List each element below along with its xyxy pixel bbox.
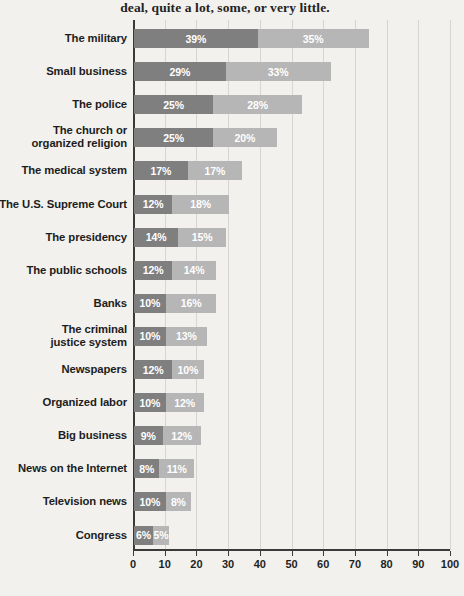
bar-segment-b: 12% [163,426,201,445]
bar-segment-b: 20% [213,128,276,147]
bar-segment-a: 10% [134,393,166,412]
bar-segment-b: 13% [166,327,207,346]
bar-value-b: 17% [204,165,225,177]
bar-value-a: 39% [185,33,206,45]
bar-value-a: 29% [170,66,191,78]
bar-value-a: 25% [163,132,184,144]
row-label-line: Television news [0,495,127,508]
bar-segment-a: 6% [134,526,153,545]
bar-value-b: 33% [268,66,289,78]
bar-segment-b: 17% [188,161,242,180]
chart-row: The police25%28% [0,88,450,121]
bar-segment-a: 39% [134,29,258,48]
bar-value-b: 13% [176,330,197,342]
stacked-bar: 39%35% [134,29,369,48]
chart-row: The presidency14%15% [0,221,450,254]
x-tick-20 [196,551,197,556]
bar-segment-b: 28% [213,95,302,114]
x-tick-10 [165,551,166,556]
bar-segment-a: 10% [134,294,166,313]
row-label-line: The U.S. Supreme Court [0,198,127,211]
row-label-line: Newspapers [0,363,127,376]
row-label: Newspapers [0,363,127,376]
bar-value-a: 12% [143,264,164,276]
chart-row: Big business9%12% [0,419,450,452]
chart-row: Newspapers12%10% [0,353,450,386]
chart-row: Small business29%33% [0,55,450,88]
row-label-line: The public schools [0,264,127,277]
chart-row: The military39%35% [0,22,450,55]
bar-segment-b: 8% [166,492,191,511]
bar-value-a: 12% [143,198,164,210]
bar-segment-a: 12% [134,261,172,280]
bar-value-a: 14% [146,231,167,243]
chart-row: News on the Internet8%11% [0,452,450,485]
chart-row: Organized labor10%12% [0,386,450,419]
bar-segment-b: 12% [166,393,204,412]
row-label-line: Organized labor [0,396,127,409]
x-tick-80 [387,551,388,556]
row-label-line: The presidency [0,231,127,244]
row-label-line: organized religion [0,137,127,150]
chart-row: The U.S. Supreme Court12%18% [0,188,450,221]
row-label: The military [0,32,127,45]
stacked-bar: 14%15% [134,228,226,247]
stacked-bar: 8%11% [134,459,194,478]
row-label: Big business [0,429,127,442]
row-label-line: News on the Internet [0,462,127,475]
bar-value-b: 15% [192,231,213,243]
bar-value-a: 8% [139,463,154,475]
bar-value-b: 8% [171,496,186,508]
chart-row: Television news10%8% [0,485,450,518]
bar-value-a: 25% [163,99,184,111]
row-label: The public schools [0,264,127,277]
row-label-line: Big business [0,429,127,442]
stacked-bar: 10%16% [134,294,216,313]
bar-segment-b: 15% [178,228,226,247]
row-label: Organized labor [0,396,127,409]
chart-row: Banks10%16% [0,287,450,320]
bar-value-b: 11% [167,463,187,475]
chart-caption: deal, quite a lot, some, or very little. [0,0,450,18]
row-label: The church ororganized religion [0,124,127,150]
row-label-line: The church or [0,124,127,137]
chart-plot-area: The military39%35%Small business29%33%Th… [0,20,450,596]
row-label-line: The medical system [0,164,127,177]
bar-segment-a: 25% [134,95,213,114]
chart-row: The public schools12%14% [0,254,450,287]
bar-segment-a: 12% [134,360,172,379]
bar-segment-a: 10% [134,327,166,346]
x-tick-90 [418,551,419,556]
bar-value-b: 12% [171,430,192,442]
row-label-line: The military [0,32,127,45]
chart-row: The criminaljustice system10%13% [0,320,450,353]
stacked-bar: 10%13% [134,327,207,346]
bar-value-a: 17% [151,165,172,177]
row-label: The criminaljustice system [0,323,127,349]
bar-segment-a: 29% [134,62,226,81]
row-label: The police [0,98,127,111]
stacked-bar: 12%14% [134,261,216,280]
stacked-bar: 9%12% [134,426,201,445]
bar-value-a: 10% [139,297,160,309]
row-label: Banks [0,297,127,310]
bar-segment-a: 12% [134,195,172,214]
row-label: The U.S. Supreme Court [0,198,127,211]
row-label-line: The police [0,98,127,111]
x-tick-0 [133,551,134,556]
stacked-bar: 25%28% [134,95,302,114]
bar-segment-a: 25% [134,128,213,147]
bar-value-a: 10% [139,397,160,409]
x-tick-label-100: 100 [430,558,464,570]
bar-segment-b: 10% [172,360,204,379]
bar-segment-a: 10% [134,492,166,511]
chart-row: The church ororganized religion25%20% [0,121,450,154]
row-label: Television news [0,495,127,508]
stacked-bar: 10%8% [134,492,191,511]
stacked-bar: 6%5% [134,526,169,545]
stacked-bar: 10%12% [134,393,204,412]
bar-value-b: 20% [235,132,256,144]
row-label-line: The criminal [0,323,127,336]
bar-segment-a: 17% [134,161,188,180]
bar-segment-b: 35% [258,29,369,48]
